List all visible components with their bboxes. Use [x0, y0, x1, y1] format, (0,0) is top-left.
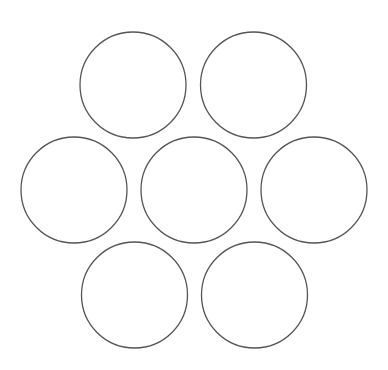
circle-bottom-right	[202, 242, 308, 348]
circle-top-left	[80, 32, 186, 138]
circle-middle-center	[141, 137, 247, 243]
circle-bottom-left	[82, 242, 188, 348]
circle-top-right	[201, 32, 307, 138]
circle-middle-right	[261, 137, 367, 243]
circle-middle-left	[21, 137, 127, 243]
circle-diagram	[0, 0, 388, 370]
